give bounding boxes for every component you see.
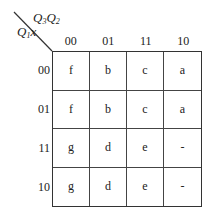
cell-r10-c11: e [127,168,164,207]
cell-r10-c00: g [53,168,90,207]
row-header-00: 00 [28,63,50,77]
kmap-grid: f b c a f b c a g d e - g d e - [52,51,202,207]
row-variable-label: Q1x [17,25,36,40]
cell-r11-c00: g [53,129,90,168]
cell-r00-c10: a [164,52,201,91]
cell-r01-c10: a [164,91,201,130]
cell-r01-c00: f [53,91,90,130]
column-header-01: 01 [90,34,128,48]
column-header-11: 11 [127,34,165,48]
cell-r00-c00: f [53,52,90,91]
cell-r11-c10: - [164,129,201,168]
cell-r00-c01: b [90,52,127,91]
cell-r11-c01: d [90,129,127,168]
cell-r10-c10: - [164,168,201,207]
column-header-00: 00 [52,34,90,48]
cell-r01-c11: c [127,91,164,130]
column-variable-label: Q3Q2 [33,11,60,26]
cell-r10-c01: d [90,168,127,207]
column-header-10: 10 [165,34,203,48]
cell-r11-c11: e [127,129,164,168]
row-header-10: 10 [28,180,50,194]
cell-r00-c11: c [127,52,164,91]
row-header-01: 01 [28,102,50,116]
row-header-11: 11 [28,141,50,155]
karnaugh-map: Q3Q2 Q1x 00 01 11 10 00 01 11 10 f b c a… [0,0,212,218]
cell-r01-c01: b [90,91,127,130]
